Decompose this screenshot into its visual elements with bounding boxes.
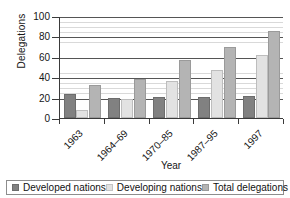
bar-developing [256,55,268,118]
chart-legend: Developed nations Developing nations Tot… [6,180,284,195]
bar-chart: Delegations 020406080100 19631964–691970… [0,0,290,198]
bar-developing [166,81,178,118]
bar-developed [64,94,76,118]
x-axis-tick [104,119,105,124]
y-axis-tick-label: 80 [24,32,50,42]
plot-area [59,17,283,119]
legend-label: Developing nations [117,183,202,193]
legend-item-developed-nations[interactable]: Developed nations [12,183,106,193]
y-axis-tick-label: 0 [24,114,50,124]
bar-total [179,60,191,118]
legend-label: Developed nations [23,183,106,193]
x-axis-title: Year [59,160,283,171]
x-axis-tick [283,119,284,124]
y-axis-tick [52,78,59,79]
y-axis-tick [52,17,59,18]
x-axis-tick [149,119,150,124]
y-axis-tick [52,99,59,100]
y-axis-tick-label: 20 [24,94,50,104]
x-axis-tick [59,119,60,124]
total-swatch-icon [202,184,209,191]
y-axis-tick [52,119,59,120]
bar-total [134,79,146,118]
y-axis-tick [52,37,59,38]
legend-item-total-delegations[interactable]: Total delegations [202,183,288,193]
y-axis-tick-label: 60 [24,53,50,63]
y-axis-tick-label: 100 [24,12,50,22]
x-axis-tick [238,119,239,124]
legend-label: Total delegations [213,183,288,193]
bar-total [224,47,236,118]
bar-developed [108,98,120,118]
y-axis-tick [52,58,59,59]
x-axis-tick [193,119,194,124]
legend-item-developing-nations[interactable]: Developing nations [106,183,202,193]
y-axis-tick-label: 40 [24,73,50,83]
bar-series-group [60,17,283,118]
bar-developed [153,97,165,118]
bar-developing [211,70,223,118]
bar-total [268,31,280,118]
bar-developing [121,99,133,118]
bar-developed [243,96,255,118]
bar-developed [198,97,210,118]
bar-total [89,85,101,118]
bar-developing [76,110,88,118]
developing-swatch-icon [106,184,113,191]
developed-swatch-icon [12,184,19,191]
